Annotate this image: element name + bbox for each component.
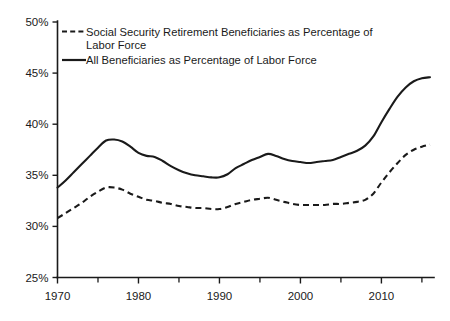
legend-label-all-beneficiaries: All Beneficiaries as Percentage of Labor…	[86, 54, 317, 66]
line-chart: 25%30%35%40%45%50% 19701980199020002010 …	[0, 0, 450, 321]
y-tick-label: 35%	[25, 169, 48, 181]
x-tick-label: 1980	[126, 290, 152, 302]
x-tick-label: 1970	[45, 290, 71, 302]
x-tick-label: 2010	[369, 290, 395, 302]
chart-legend: Social Security Retirement Beneficiaries…	[62, 26, 374, 67]
y-tick-label: 45%	[25, 67, 48, 79]
series-line-all-beneficiaries	[58, 77, 431, 187]
y-tick-label: 50%	[25, 16, 48, 28]
y-tick-label: 25%	[25, 272, 48, 284]
x-tick-label: 1990	[207, 290, 233, 302]
y-axis-tick-labels: 25%30%35%40%45%50%	[25, 16, 48, 284]
legend-label-retirement-line2: Labor Force	[86, 39, 146, 51]
x-axis-major-ticks	[58, 278, 382, 284]
y-tick-label: 30%	[25, 220, 48, 232]
y-tick-label: 40%	[25, 118, 48, 130]
series-line-retirement-beneficiaries	[58, 145, 431, 219]
legend-label-retirement-line1: Social Security Retirement Beneficiaries…	[86, 26, 374, 38]
x-axis-tick-labels: 19701980199020002010	[45, 290, 395, 302]
x-tick-label: 2000	[288, 290, 314, 302]
chart-container: 25%30%35%40%45%50% 19701980199020002010 …	[0, 0, 450, 321]
